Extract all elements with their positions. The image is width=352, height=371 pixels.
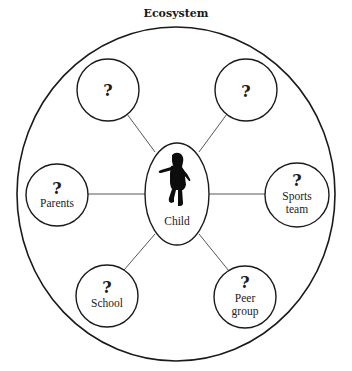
node-label-peer-line1: Peer	[235, 292, 256, 304]
ecosystem-diagram: Ecosystem ? ? ? Parents ? Sports team ? …	[0, 0, 352, 371]
node-label-school: School	[91, 297, 123, 309]
unknown-mark: ?	[241, 82, 250, 101]
node-label-child: Child	[164, 215, 190, 227]
diagram-title: Ecosystem	[144, 7, 209, 20]
node-label-parents: Parents	[40, 197, 74, 209]
node-peer-group: ? Peer group	[214, 266, 276, 328]
node-label-peer-line2: group	[232, 305, 259, 318]
unknown-mark: ?	[240, 273, 249, 292]
node-sports-team: ? Sports team	[265, 163, 329, 227]
unknown-mark: ?	[52, 179, 61, 198]
unknown-mark: ?	[102, 278, 111, 297]
node-top-right: ?	[215, 59, 277, 121]
node-label-sports-line2: team	[286, 203, 308, 215]
node-child: Child	[145, 143, 209, 245]
node-parents: ? Parents	[26, 164, 88, 226]
node-school: ? School	[76, 265, 138, 327]
unknown-mark: ?	[103, 81, 112, 100]
node-top-left: ?	[77, 59, 139, 121]
node-label-sports-line1: Sports	[282, 190, 312, 203]
unknown-mark: ?	[292, 171, 301, 190]
